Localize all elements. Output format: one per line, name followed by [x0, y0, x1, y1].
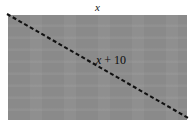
- diagonal-length-label: x + 10: [96, 53, 126, 68]
- diagonal-label-constant: 10: [114, 53, 126, 67]
- top-side-label: x: [0, 0, 195, 14]
- geometry-figure: x x + 10: [0, 0, 195, 129]
